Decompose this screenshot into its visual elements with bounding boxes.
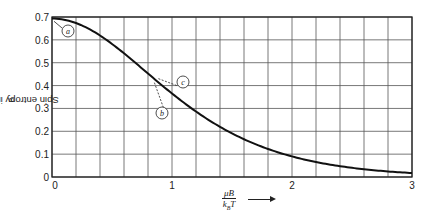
annotation-a-leader: [54, 21, 62, 28]
entropy-chart: 00.10.20.30.40.50.60.70123abc: [0, 0, 429, 217]
y-tick-label: 0: [43, 172, 49, 183]
y-tick-label: 0.6: [35, 35, 49, 46]
annotation-a-label: a: [66, 27, 70, 36]
y-tick-label: 0.7: [35, 12, 49, 23]
entropy-curve: [52, 19, 412, 173]
y-tick-label: 0.4: [35, 81, 49, 92]
x-axis-arrow-icon: [248, 199, 274, 200]
x-axis-label: μB kBT: [222, 188, 236, 211]
y-tick-label: 0.2: [35, 126, 49, 137]
x-tick-label: 3: [409, 180, 415, 191]
annotation-c-label: c: [181, 78, 185, 87]
y-tick-label: 0.5: [35, 58, 49, 69]
y-tick-label: 0.1: [35, 149, 49, 160]
y-axis-label: Spin entropy in units NkB: [2, 30, 16, 170]
plot-frame: [52, 17, 412, 177]
x-tick-label: 2: [289, 180, 295, 191]
x-tick-label: 1: [169, 180, 175, 191]
x-tick-label: 0: [52, 180, 58, 191]
annotation-b-label: b: [160, 109, 164, 118]
